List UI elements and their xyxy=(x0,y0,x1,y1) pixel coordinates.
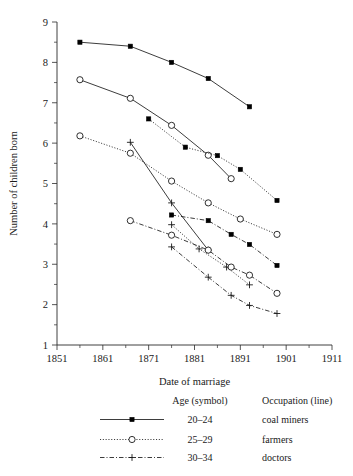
y-tick-label: 4 xyxy=(43,219,49,230)
marker-open-circle xyxy=(246,272,252,278)
y-tick-label: 1 xyxy=(43,340,48,351)
legend-age-label: 20–24 xyxy=(188,414,213,425)
legend-row-0: 20–24coal miners xyxy=(100,414,308,425)
y-axis-title: Number of children born xyxy=(8,130,19,235)
marker-filled-square xyxy=(275,198,279,202)
y-tick-label: 3 xyxy=(43,259,48,270)
marker-filled-square xyxy=(147,117,151,121)
marker-open-circle xyxy=(127,150,133,156)
marker-open-circle xyxy=(168,122,174,128)
x-axis-title: Date of marriage xyxy=(159,376,230,387)
marker-filled-square xyxy=(215,154,219,158)
marker-filled-square xyxy=(169,213,173,217)
legend-occupation-label: farmers xyxy=(262,434,293,445)
series-doctors-30-34 xyxy=(168,243,280,316)
marker-filled-square xyxy=(130,417,134,421)
chart-canvas: 1234567891851186118711881189119011911Dat… xyxy=(0,0,353,476)
legend-row-1: 25–29farmers xyxy=(100,434,293,445)
x-tick-label: 1881 xyxy=(184,353,205,364)
marker-open-circle xyxy=(228,176,234,182)
chart-figure: 1234567891851186118711881189119011911Dat… xyxy=(0,0,353,476)
marker-filled-square xyxy=(247,105,251,109)
y-tick-label: 2 xyxy=(43,299,48,310)
marker-open-circle xyxy=(168,232,174,238)
marker-open-circle xyxy=(77,77,83,83)
series-coal-miners-20-24 xyxy=(78,40,252,109)
marker-filled-square xyxy=(247,242,251,246)
axis-labels: 1234567891851186118711881189119011911Dat… xyxy=(8,17,342,387)
series-line xyxy=(80,42,250,107)
marker-filled-square xyxy=(206,219,210,223)
x-tick-label: 1901 xyxy=(276,353,297,364)
x-tick-label: 1911 xyxy=(322,353,343,364)
marker-open-circle xyxy=(205,200,211,206)
y-tick-label: 5 xyxy=(43,178,48,189)
x-tick-label: 1861 xyxy=(92,353,113,364)
marker-open-circle xyxy=(129,436,135,442)
marker-filled-square xyxy=(169,60,173,64)
legend-header-line: Occupation (line) xyxy=(262,395,332,407)
series-doctors-25-29 xyxy=(127,218,280,297)
marker-filled-square xyxy=(183,145,187,149)
y-tick-label: 9 xyxy=(43,17,48,28)
series-line xyxy=(80,80,231,179)
y-tick-label: 6 xyxy=(43,138,48,149)
series-line xyxy=(172,247,277,314)
series-line xyxy=(80,136,277,235)
series-line xyxy=(130,221,277,294)
legend-row-2: 30–34doctors xyxy=(100,452,292,463)
marker-open-circle xyxy=(237,216,243,222)
marker-open-circle xyxy=(205,247,211,253)
legend-occupation-label: coal miners xyxy=(262,414,308,425)
data-series-group xyxy=(77,40,281,317)
marker-open-circle xyxy=(274,231,280,237)
marker-open-circle xyxy=(168,178,174,184)
marker-filled-square xyxy=(78,40,82,44)
marker-filled-square xyxy=(229,232,233,236)
marker-open-circle xyxy=(77,133,83,139)
legend-occupation-label: doctors xyxy=(262,452,292,463)
x-tick-label: 1891 xyxy=(230,353,251,364)
x-tick-label: 1871 xyxy=(138,353,159,364)
series-line xyxy=(172,225,250,285)
marker-open-circle xyxy=(228,264,234,270)
marker-filled-square xyxy=(206,76,210,80)
marker-filled-square xyxy=(275,263,279,267)
legend-age-label: 30–34 xyxy=(188,452,213,463)
marker-open-circle xyxy=(127,218,133,224)
marker-filled-square xyxy=(128,44,132,48)
marker-filled-square xyxy=(238,167,242,171)
x-tick-label: 1851 xyxy=(47,353,68,364)
series-farmers-25-29 xyxy=(77,133,280,238)
marker-open-circle xyxy=(127,95,133,101)
series-coal-miners-25-29 xyxy=(77,77,234,182)
y-tick-label: 8 xyxy=(43,57,48,68)
y-tick-label: 7 xyxy=(43,98,48,109)
legend: Age (symbol)Occupation (line)20–24coal m… xyxy=(100,395,332,463)
legend-age-label: 25–29 xyxy=(188,434,213,445)
marker-open-circle xyxy=(274,290,280,296)
legend-header-symbol: Age (symbol) xyxy=(172,395,227,407)
